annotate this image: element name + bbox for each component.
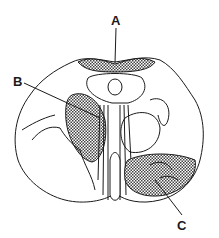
region-a	[78, 58, 155, 72]
leader-line-a	[115, 28, 116, 63]
label-b: B	[13, 75, 22, 88]
label-c: C	[177, 219, 186, 232]
cross-section-diagram	[0, 0, 219, 238]
region-c	[125, 154, 196, 196]
label-a: A	[111, 14, 120, 27]
